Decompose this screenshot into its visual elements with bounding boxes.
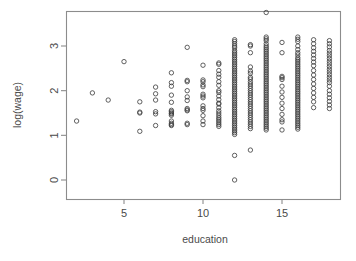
scatter-plot-svg: 51015 0123 education log(wage) <box>0 0 356 261</box>
y-tick-label: 1 <box>48 132 60 138</box>
y-tick-label: 0 <box>48 177 60 183</box>
x-tick-label: 15 <box>276 207 288 219</box>
x-axis-title: education <box>182 233 228 245</box>
y-tick-label: 3 <box>48 43 60 49</box>
plot-background <box>0 0 356 261</box>
scatter-plot-panel: 51015 0123 education log(wage) <box>0 0 356 261</box>
x-tick-label: 5 <box>121 207 127 219</box>
y-tick-label: 2 <box>48 88 60 94</box>
y-axis-title: log(wage) <box>11 82 23 128</box>
x-tick-label: 10 <box>197 207 209 219</box>
